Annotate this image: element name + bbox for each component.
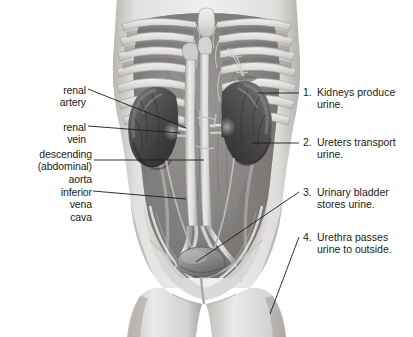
callout-1-kidneys: 1. Kidneys produce urine. [303,86,409,111]
callout-4-number: 4. [303,231,312,243]
callout-3-number: 3. [303,186,312,198]
label-renal-artery: renal artery [8,84,86,109]
label-renal-vein: renal vein [8,121,86,146]
callout-2-ureters: 2. Ureters transport urine. [303,136,409,161]
callout-2-number: 2. [303,136,312,148]
urinary-system-figure: renal artery renal vein descending (abdo… [0,0,413,337]
callout-2-text: Ureters transport urine. [317,136,409,161]
callout-3-bladder: 3. Urinary bladder stores urine. [303,186,409,211]
callout-1-number: 1. [303,86,312,98]
label-inferior-vena-cava: inferior vena cava [8,186,92,223]
callout-1-text: Kidneys produce urine. [317,86,409,111]
callout-4-urethra: 4. Urethra passes urine to outside. [303,231,411,256]
callout-4-text: Urethra passes urine to outside. [317,231,411,256]
label-descending-aorta: descending (abdominal) aorta [6,148,92,185]
callout-3-text: Urinary bladder stores urine. [317,186,409,211]
